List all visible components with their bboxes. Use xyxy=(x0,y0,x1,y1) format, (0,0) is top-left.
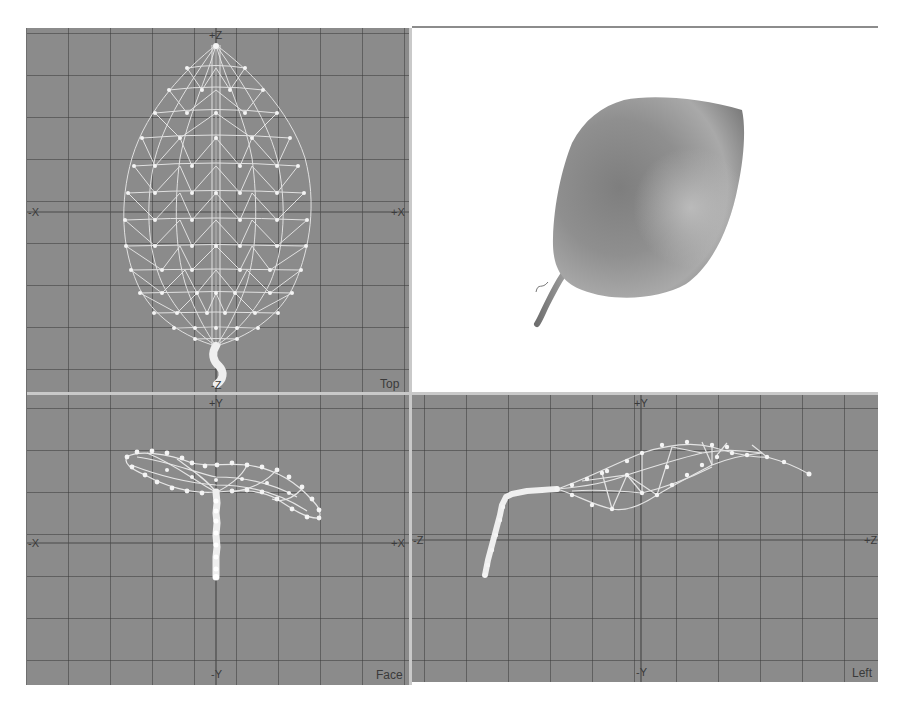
viewport-face[interactable]: +Y -Y -X +X Face xyxy=(27,395,409,685)
viewport-name-left: Left xyxy=(852,667,872,679)
viewport-name-face: Face xyxy=(376,669,403,681)
viewport-splitter-horizontal[interactable] xyxy=(27,392,878,395)
axis-label-left: -Z xyxy=(413,535,423,546)
axis-label-bottom: -Z xyxy=(211,380,221,391)
axis-label-right: +X xyxy=(391,207,405,218)
axis-label-top: +Z xyxy=(209,30,222,41)
face-view-wireframe xyxy=(27,395,409,685)
axis-label-top: +Y xyxy=(209,398,223,409)
axis-label-bottom: -Y xyxy=(211,669,222,680)
axis-label-left: -X xyxy=(28,538,39,549)
axis-label-left: -X xyxy=(28,207,39,218)
axis-label-right: +Z xyxy=(864,535,877,546)
shaded-leaf-render xyxy=(412,28,878,392)
axis-label-right: +X xyxy=(391,538,405,549)
viewport-splitter-vertical[interactable] xyxy=(409,28,412,685)
left-view-wireframe xyxy=(412,395,878,682)
axis-label-top: +Y xyxy=(634,398,648,409)
viewport-name-top: Top xyxy=(380,378,399,390)
top-view-wireframe xyxy=(27,28,409,392)
viewport-left[interactable]: +Y -Y -Z +Z Left xyxy=(412,395,878,682)
viewport-perspective[interactable] xyxy=(412,28,878,392)
viewport-top[interactable]: +Z -Z -X +X Top xyxy=(27,28,409,392)
axis-label-bottom: -Y xyxy=(636,667,647,678)
